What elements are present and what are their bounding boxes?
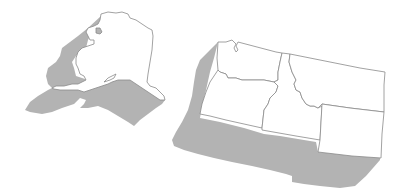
state-wyoming[interactable]: [318, 104, 384, 158]
alaska-group: [25, 12, 165, 126]
region-map: [0, 0, 407, 190]
northwest-group: [172, 40, 385, 188]
